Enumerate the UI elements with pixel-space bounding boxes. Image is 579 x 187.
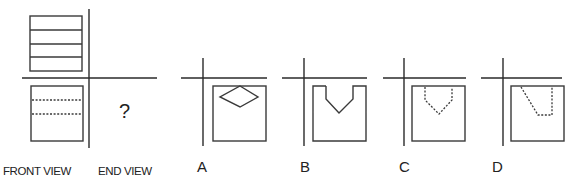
orthographic-projection-diagram: ? FRONT VIEW END VIEW A B C D <box>0 0 579 187</box>
option-d[interactable]: D <box>481 58 564 175</box>
option-b[interactable]: B <box>282 58 367 175</box>
front-view-box <box>31 86 83 141</box>
problem-views: ? FRONT VIEW END VIEW <box>3 9 157 177</box>
option-d-label: D <box>492 158 503 175</box>
option-a[interactable]: A <box>181 58 267 175</box>
end-view-label: END VIEW <box>98 165 152 177</box>
front-view-label: FRONT VIEW <box>3 165 72 177</box>
hidden-v-notch <box>425 87 452 114</box>
hidden-slanted-notch <box>521 87 552 115</box>
top-view-box <box>30 16 82 71</box>
option-c[interactable]: C <box>383 58 466 175</box>
notched-block-shape <box>313 86 366 141</box>
option-c-label: C <box>399 158 410 175</box>
diamond-shape <box>220 86 258 107</box>
option-b-label: B <box>300 158 310 175</box>
end-view-question-mark: ? <box>119 100 130 122</box>
option-a-label: A <box>197 158 207 175</box>
